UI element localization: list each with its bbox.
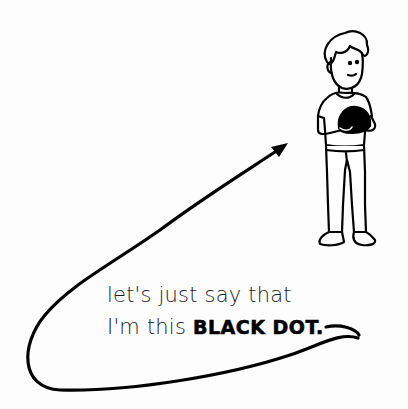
eye bbox=[349, 62, 351, 64]
caption-prefix: I'm this bbox=[107, 315, 193, 339]
arrow-tail-hook bbox=[326, 326, 359, 335]
boy-figure bbox=[318, 31, 375, 245]
arrowhead-icon bbox=[271, 143, 288, 157]
curved-arrow bbox=[28, 143, 359, 390]
face bbox=[331, 54, 363, 89]
caption-line-1: let's just say that bbox=[107, 283, 292, 307]
mouth bbox=[348, 74, 356, 76]
right-shoe bbox=[353, 232, 375, 245]
caption-line-2: I'm this BLACK DOT. bbox=[107, 315, 324, 339]
left-shoe bbox=[319, 232, 344, 245]
arrow-curve bbox=[28, 150, 358, 390]
caption-emphasis: BLACK DOT. bbox=[193, 316, 324, 338]
drawing-canvas bbox=[0, 0, 408, 409]
fly-line bbox=[346, 153, 347, 162]
eye bbox=[356, 61, 358, 63]
illustration: let's just say that I'm this BLACK DOT. bbox=[0, 0, 408, 409]
